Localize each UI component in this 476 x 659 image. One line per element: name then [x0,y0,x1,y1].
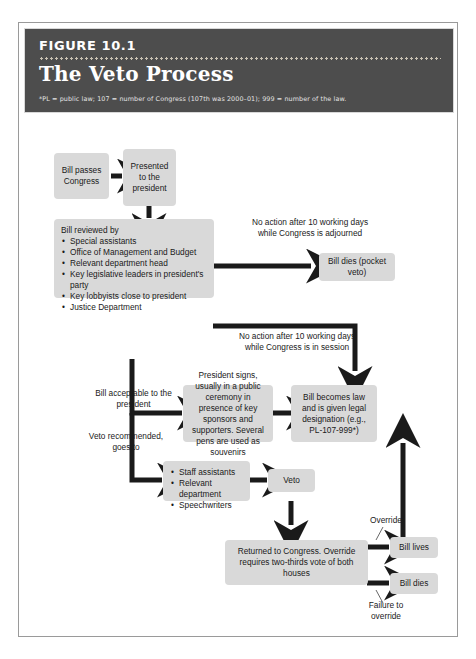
node-label: Bill becomes law and is given legal desi… [296,392,372,436]
node-label: Presented to the president [128,161,171,194]
figure-frame: FIGURE 10.1 The Veto Process *PL = publi… [18,22,458,637]
edge-label-bill-acceptable: Bill acceptable to the president [81,388,186,410]
edge-label-failure-to-override: Failure to override [357,600,415,622]
node-veto-staff-list[interactable]: Staff assistants Relevant department Spe… [163,461,250,501]
list-item: Relevant department [179,478,243,500]
flowchart-canvas: Bill passes Congress Presented to the pr… [19,113,457,636]
node-label: Bill passes Congress [59,165,104,187]
node-presented-to-president[interactable]: Presented to the president [123,149,176,206]
node-label: Returned to Congress. Override requires … [230,546,363,579]
node-label: President signs, usually in a public cer… [188,370,268,458]
node-bill-reviewed-by[interactable]: Bill reviewed by Special assistants Offi… [54,219,214,298]
caption-text: No action after 10 working days while Co… [239,331,355,352]
node-president-signs[interactable]: President signs, usually in a public cer… [183,385,273,442]
caption-text: No action after 10 working days while Co… [252,217,368,238]
list-item: Justice Department [70,302,207,313]
list-item: Office of Management and Budget [70,247,207,258]
node-label: Bill lives [399,542,429,553]
node-label: Veto [283,475,300,486]
node-bill-dies[interactable]: Bill dies [390,573,438,594]
node-bill-becomes-law[interactable]: Bill becomes law and is given legal desi… [291,385,377,442]
figure-header-band: FIGURE 10.1 The Veto Process *PL = publi… [24,28,454,113]
edge-label-veto-recommended: Veto recommended, goes to [81,431,171,453]
figure-title: The Veto Process [39,62,234,86]
node-bill-passes-congress[interactable]: Bill passes Congress [54,153,109,199]
list-item: Speechwriters [179,500,243,511]
list-item: Key legislative leaders in president's p… [70,269,207,291]
edge-label-no-action-in-session: No action after 10 working days while Co… [234,331,360,353]
node-returned-to-congress[interactable]: Returned to Congress. Override requires … [225,540,368,585]
node-label: Bill dies [400,578,429,589]
figure-footnote: *PL = public law; 107 = number of Congre… [39,95,346,103]
node-bill-dies-pocket-veto[interactable]: Bill dies (pocket veto) [319,253,395,281]
node-veto[interactable]: Veto [268,469,315,492]
caption-text: Failure to override [369,600,404,621]
edge-label-override: Override [357,515,415,526]
list-item: Key lobbyists close to president [70,291,207,302]
caption-text: Veto recommended, goes to [89,431,163,452]
edge-label-no-action-adjourned: No action after 10 working days while Co… [247,217,373,239]
list-item: Staff assistants [179,467,243,478]
caption-text: Override [370,515,402,525]
list-item: Special assistants [70,236,207,247]
veto-staff-list: Staff assistants Relevant department Spe… [170,467,243,511]
node-bill-lives[interactable]: Bill lives [390,537,438,558]
node-lead-label: Bill reviewed by [61,225,207,236]
list-item: Relevant department head [70,258,207,269]
reviewed-by-list: Special assistants Office of Management … [61,236,207,313]
caption-text: Bill acceptable to the president [95,388,172,409]
dotted-rule-divider [39,57,441,60]
figure-number: FIGURE 10.1 [39,38,136,53]
node-label: Bill dies (pocket veto) [324,256,390,278]
